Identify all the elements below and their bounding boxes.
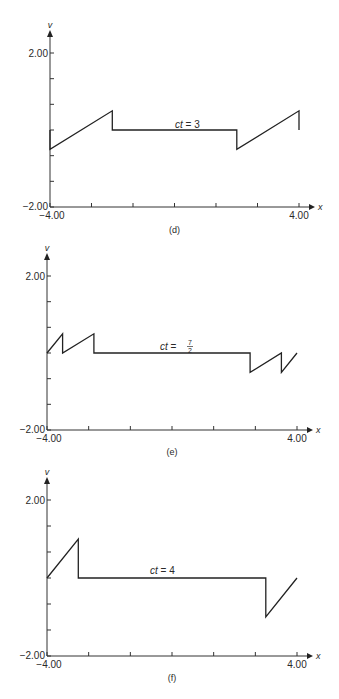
x-tick-label-right: 4.00 bbox=[287, 659, 307, 670]
y-tick-label-top: 2.00 bbox=[26, 271, 46, 282]
chart-panel-2: 2.00−2.00−4.004.00vxct = 72(e) bbox=[20, 243, 321, 457]
series-line-v bbox=[47, 334, 297, 373]
y-axis-arrow-icon bbox=[44, 477, 50, 484]
y-axis-label: v bbox=[45, 243, 50, 253]
y-tick-label-top: 2.00 bbox=[26, 495, 46, 506]
x-axis-arrow-icon bbox=[309, 204, 315, 210]
x-tick-label-left: −4.00 bbox=[36, 659, 62, 670]
y-axis-label: v bbox=[45, 467, 50, 477]
annotation-denominator: 2 bbox=[188, 347, 192, 354]
panel-caption: (d) bbox=[169, 225, 180, 235]
panel-caption: (e) bbox=[167, 447, 178, 457]
annotation-ct: ct = 4 bbox=[150, 565, 175, 576]
x-tick-label-left: −4.00 bbox=[39, 210, 65, 221]
annotation-ct: ct = bbox=[160, 341, 177, 352]
chart-panel-3: 2.00−2.00−4.004.00vxct = 4(f) bbox=[20, 467, 321, 683]
chart-panel-1: 2.00−2.00−4.004.00vxct = 3(d) bbox=[23, 20, 323, 235]
panel-caption: (f) bbox=[168, 673, 177, 683]
x-tick-label-right: 4.00 bbox=[287, 433, 307, 444]
series-line-v bbox=[47, 539, 297, 617]
annotation-numerator: 7 bbox=[188, 339, 192, 346]
y-axis-arrow-icon bbox=[44, 253, 50, 260]
x-axis-arrow-icon bbox=[307, 427, 313, 433]
y-axis-label: v bbox=[48, 20, 53, 30]
x-tick-label-right: 4.00 bbox=[289, 210, 309, 221]
x-axis-label: x bbox=[315, 651, 321, 661]
y-tick-label-top: 2.00 bbox=[29, 48, 49, 59]
x-tick-label-left: −4.00 bbox=[36, 433, 62, 444]
y-axis-arrow-icon bbox=[47, 30, 53, 37]
x-axis-label: x bbox=[317, 202, 323, 212]
series-line-v bbox=[50, 111, 299, 150]
figure: 2.00−2.00−4.004.00vxct = 3(d)2.00−2.00−4… bbox=[0, 0, 339, 699]
annotation-ct: ct = 3 bbox=[175, 119, 200, 130]
x-axis-label: x bbox=[315, 425, 321, 435]
x-axis-arrow-icon bbox=[307, 653, 313, 659]
